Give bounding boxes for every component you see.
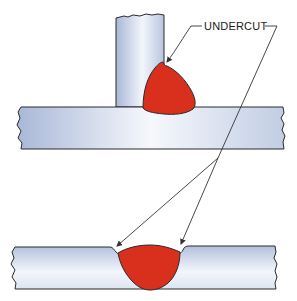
bottom-butt-joint [11, 245, 277, 290]
leader-line-top [167, 26, 202, 62]
undercut-label: UNDERCUT [204, 20, 267, 32]
top-t-joint [17, 14, 285, 149]
leader-line-bottom-left [117, 158, 218, 246]
horizontal-plate [17, 107, 285, 149]
leader-line-bottom-right [181, 158, 218, 244]
undercut-diagram: UNDERCUT [0, 0, 297, 301]
